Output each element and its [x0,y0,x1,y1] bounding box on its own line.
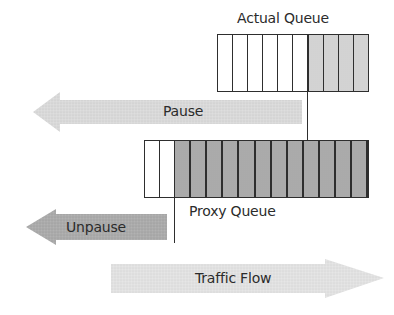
traffic-flow-label: Traffic Flow [195,271,271,285]
traffic-flow-arrow-icon [0,0,394,315]
